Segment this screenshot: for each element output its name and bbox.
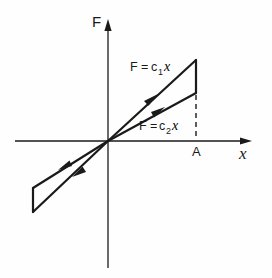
upper-equation-lhs: F <box>130 60 138 74</box>
upper-branch-equation: F = c 1 x <box>130 59 171 77</box>
upper-loading-arrow-icon <box>144 94 158 106</box>
amplitude-point-label: A <box>192 144 201 159</box>
upper-equation-equals: = <box>141 60 148 74</box>
lower-equation-subscript: 2 <box>166 126 171 136</box>
lower-branch-equation: F = c 2 x <box>139 118 179 136</box>
f-axis-label: F <box>92 13 101 30</box>
lower-equation-coefficient: c <box>159 119 165 133</box>
lower-equation-equals: = <box>150 119 157 133</box>
figure-canvas: F x F = c 1 x F = c 2 x A <box>0 0 272 278</box>
f-axis-arrowhead-icon <box>104 19 111 31</box>
upper-equation-coefficient: c <box>151 60 157 74</box>
lower-equation-variable: x <box>171 118 179 133</box>
lower-equation-lhs: F <box>139 119 147 133</box>
x-axis-label: x <box>238 144 247 163</box>
upper-equation-subscript: 1 <box>158 67 163 77</box>
lower-branch-loading-line <box>33 141 108 212</box>
upper-equation-variable: x <box>163 59 171 74</box>
lower-loop-group <box>33 141 108 212</box>
hysteresis-figure: F x F = c 1 x F = c 2 x A <box>0 0 272 278</box>
axes-group <box>15 19 252 268</box>
